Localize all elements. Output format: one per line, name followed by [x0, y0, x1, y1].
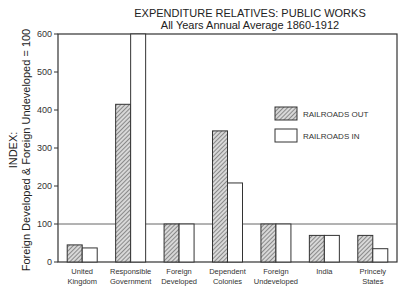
bar-railroads-in: [228, 183, 243, 262]
y-tick-label: 300: [37, 143, 52, 153]
y-tick-label: 0: [47, 257, 52, 267]
x-category-label: United: [71, 267, 93, 276]
bar-railroads-out: [358, 235, 373, 262]
legend-label: RAILROADS OUT: [303, 110, 368, 119]
bar-railroads-out: [261, 224, 276, 262]
x-category-label: States: [362, 277, 384, 286]
y-tick-label: 500: [37, 67, 52, 77]
x-category-label: Dependent: [209, 267, 247, 276]
legend-swatch-railroads-out: [275, 107, 297, 120]
bar-railroads-out: [164, 224, 179, 262]
plot-area: 0100200300400500600UnitedKingdomResponsi…: [37, 29, 397, 286]
y-tick-label: 100: [37, 219, 52, 229]
bar-railroads-in: [82, 248, 97, 262]
x-category-label: Foreign: [166, 267, 191, 276]
bar-railroads-out: [116, 104, 131, 262]
bar-railroads-in: [324, 235, 339, 262]
bar-chart: 0100200300400500600UnitedKingdomResponsi…: [0, 0, 409, 297]
x-category-label: Responsible: [110, 267, 151, 276]
legend-label: RAILROADS IN: [303, 132, 360, 141]
x-category-label: Princely: [359, 267, 386, 276]
bar-railroads-in: [276, 224, 291, 262]
x-category-label: Developed: [161, 277, 197, 286]
y-tick-label: 400: [37, 105, 52, 115]
bar-railroads-in: [373, 249, 388, 262]
bar-railroads-in: [131, 34, 146, 262]
x-category-label: India: [316, 267, 333, 276]
y-tick-label: 600: [37, 29, 52, 39]
bar-railroads-out: [213, 131, 228, 262]
x-category-label: Government: [110, 277, 152, 286]
x-category-label: Foreign: [263, 267, 288, 276]
y-tick-label: 200: [37, 181, 52, 191]
legend-swatch-railroads-in: [275, 129, 297, 142]
x-category-label: Colonies: [213, 277, 242, 286]
x-category-label: Kingdom: [67, 277, 97, 286]
bar-railroads-out: [67, 245, 82, 262]
x-category-label: Undeveloped: [254, 277, 298, 286]
bar-railroads-in: [179, 224, 194, 262]
bar-railroads-out: [309, 235, 324, 262]
